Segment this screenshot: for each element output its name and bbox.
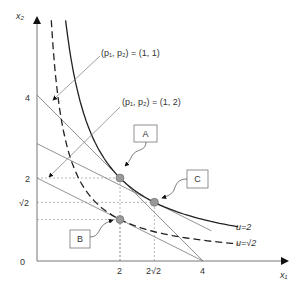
guide-lines [37, 178, 154, 261]
y-tick-2: 2 [25, 174, 30, 184]
x-tick-2sqrt2: 2√2 [146, 266, 161, 276]
svg-text:C: C [194, 174, 201, 184]
budget-label-p12: (p₁, p₂) = (1, 2) [122, 97, 181, 107]
point-C [150, 198, 158, 206]
y-tick-sqrt2: √2 [19, 198, 29, 208]
callout-B: B [70, 220, 113, 248]
x-axis-label: x₁ [279, 270, 288, 280]
svg-text:B: B [77, 234, 83, 244]
curve-label-usqrt2: u=√2 [236, 238, 256, 248]
points [116, 174, 158, 224]
x-tick-2: 2 [117, 266, 122, 276]
curve-label-u2: u=2 [236, 222, 251, 232]
y-tick-4: 4 [25, 93, 30, 103]
point-A [116, 174, 124, 182]
callout-C: C [162, 170, 208, 198]
x-tick-4: 4 [200, 266, 205, 276]
budget-line-p12-comp [37, 144, 211, 231]
budget-label-p11-pointer [53, 56, 100, 100]
origin-label: 0 [20, 257, 25, 267]
callout-A: A [125, 125, 157, 166]
consumer-choice-diagram: x₁ x₂ 0 2 2√2 4 4 2 √2 (p₁, p₂) = (1, 1)… [0, 0, 300, 296]
budget-label-p11: (p₁, p₂) = (1, 1) [101, 48, 160, 58]
point-B [116, 216, 124, 224]
svg-text:A: A [142, 129, 148, 139]
y-axis-label: x₂ [15, 11, 25, 21]
